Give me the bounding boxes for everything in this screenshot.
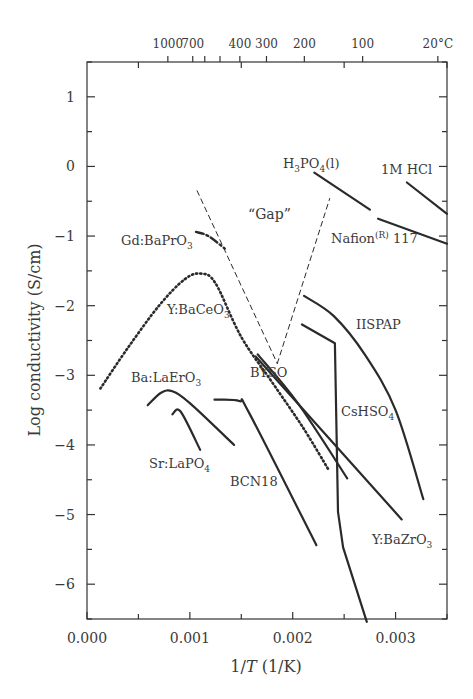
label-y-baceo3: Y:BaCeO3 (166, 302, 230, 320)
y-tick-label: −2 (54, 298, 75, 314)
x-tick-label: 0.001 (170, 630, 210, 646)
label-iispap: IISPAP (356, 317, 401, 332)
y-tick-label: −4 (54, 437, 75, 453)
top-tick-label: 100 (351, 37, 374, 51)
y-axis-title: Log conductivity (S/cm) (25, 243, 44, 436)
label-gd-baprO3: Gd:BaPrO3 (121, 233, 193, 251)
top-tick-label: 20°C (423, 37, 453, 51)
label-sr-lapo4: Sr:LaPO4 (149, 456, 210, 474)
series-bcn18 (215, 399, 317, 545)
series-gap-boundary-right (277, 199, 329, 364)
y-tick-label: −1 (54, 228, 75, 244)
label-1m-hcl: 1M HCl (381, 162, 432, 177)
top-tick-label: 700 (181, 37, 204, 51)
label-cshso4: CsHSO4 (341, 404, 395, 422)
x-tick-label: 0.002 (273, 630, 313, 646)
series-sr-lapo4 (172, 409, 200, 449)
series-1m-hcl (407, 183, 447, 214)
y-tick-label: 0 (66, 158, 75, 174)
conductivity-chart: 10−1−2−3−4−5−6 0.0000.0010.0020.003 1000… (0, 0, 473, 699)
y-tick-label: 1 (66, 89, 75, 105)
label-bcn18: BCN18 (230, 474, 278, 489)
series-cshso4 (302, 325, 367, 622)
label-y-bazro3: Y:BaZrO3 (371, 532, 433, 550)
top-tick-label: 300 (255, 37, 278, 51)
label-nafion: Nafion(R) 117 (331, 230, 418, 246)
top-tick-label: 1000 (153, 37, 184, 51)
y-tick-label: −3 (54, 367, 75, 383)
y-tick-label: −5 (54, 507, 75, 523)
label-byso: BYSO (250, 365, 287, 380)
x-axis-title: 1/T (1/K) (230, 657, 301, 676)
top-tick-label: 400 (228, 37, 251, 51)
label-ba-laero3: Ba:LaErO3 (131, 370, 201, 388)
x-tick-label: 0.000 (67, 630, 107, 646)
series-y-bazro3 (256, 357, 402, 520)
top-temperature-axis: 100070040030020010020°C (153, 37, 454, 62)
top-tick-label: 200 (293, 37, 316, 51)
label-h3po4: H3PO4(l) (283, 156, 340, 174)
series-h3po4-l (314, 173, 370, 210)
x-tick-label: 0.003 (376, 630, 416, 646)
y-tick-label: −6 (54, 576, 75, 592)
gap-label: “Gap” (248, 206, 291, 222)
